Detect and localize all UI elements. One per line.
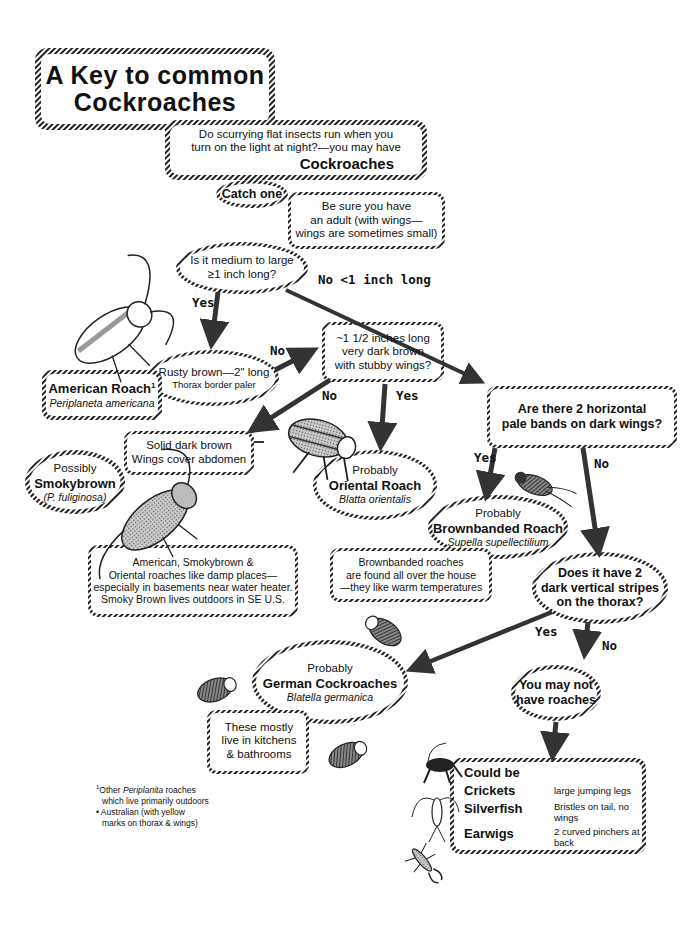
brownbanded-name: Brownbanded Roach — [433, 521, 563, 536]
label-yes-size: Yes — [192, 295, 215, 310]
solid-dark-line-2: Wings cover abdomen — [132, 453, 246, 467]
title-line-1: A Key to common — [45, 62, 264, 90]
damp-note-line-2: Oriental roaches like damp places— — [109, 569, 278, 581]
stripes-question: Does it have 2 dark vertical stripes on … — [540, 562, 660, 614]
damp-note: American, Smokybrown & Oriental roaches … — [91, 548, 295, 614]
could-be-item-desc: large jumping legs — [554, 785, 652, 796]
american-roach-result: American Roach1 Periplaneta americana — [46, 374, 158, 416]
oriental-latin: Blatta orientalis — [339, 493, 411, 505]
stubby-line-2: very dark brown — [342, 345, 424, 359]
damp-note-line-1: American, Smokybrown & — [133, 556, 254, 568]
footnote-line-2: which live primarily outdoors — [96, 796, 209, 807]
could-be-list: Could be Crickets large jumping legs Sil… — [454, 765, 652, 848]
oriental-result: Probably Oriental Roach Blatta orientali… — [320, 460, 430, 510]
could-be-item-name: Crickets — [464, 783, 554, 798]
adult-note: Be sure you have an adult (with wings— w… — [291, 195, 442, 246]
intro-box: Do scurrying flat insects run when you t… — [170, 125, 422, 175]
adult-note-line-1: Be sure you have — [322, 200, 412, 214]
stubby-line-1: ~1 1/2 inches long — [336, 332, 430, 346]
oriental-prefix: Probably — [352, 464, 397, 478]
german-name: German Cockroaches — [263, 676, 397, 691]
smokybrown-result: Possibly Smokybrown (P. fuliginosa) — [30, 458, 120, 508]
adult-note-line-3: wings are sometimes small) — [296, 227, 438, 241]
catch-one-label: Catch one — [222, 187, 282, 202]
could-be-item-desc: Bristles on tail, no wings — [554, 801, 652, 823]
brownbanded-note-line-1: Brownbanded roaches — [358, 556, 463, 568]
german-note-line-2: live in kitchens — [222, 734, 297, 748]
solid-dark-line-1: Solid dark brown — [146, 439, 232, 453]
smokybrown-prefix: Possibly — [54, 462, 97, 476]
label-no-size: No <1 inch long — [318, 272, 431, 287]
german-note: These mostly live in kitchens & bathroom… — [214, 714, 304, 768]
bands-line-2: pale bands on dark wings? — [502, 417, 662, 432]
could-be-box: Could be Crickets large jumping legs Sil… — [454, 768, 642, 844]
brownbanded-prefix: Probably — [475, 507, 520, 521]
american-roach-name: American Roach1 — [48, 381, 155, 397]
german-result: Probably German Cockroaches Blatella ger… — [262, 658, 398, 708]
brownbanded-latin: Supella supellectilium — [448, 536, 549, 548]
label-yes-stripes: Yes — [535, 624, 558, 639]
label-no-stubby: No — [322, 388, 337, 403]
brownbanded-note-line-2: are found all over the house — [346, 569, 476, 581]
brownbanded-note: Brownbanded roaches are found all over t… — [333, 551, 489, 599]
german-prefix: Probably — [307, 662, 352, 676]
could-be-heading: Could be — [464, 765, 652, 780]
footnote-line-4: marks on thorax & wings) — [96, 818, 209, 829]
intro-line-1: Do scurrying flat insects run when you — [199, 128, 393, 142]
rusty-line-1: Rusty brown—2" long — [159, 366, 270, 380]
label-yes-bands: Yes — [474, 450, 497, 465]
intro-line-2: turn on the light at night?—you may have — [191, 141, 401, 155]
smokybrown-latin: (P. fuliginosa) — [44, 491, 107, 503]
footnote: 1Other Periplanita roaches which live pr… — [96, 784, 209, 829]
label-yes-stubby: Yes — [396, 388, 419, 403]
rusty-node: Rusty brown—2" long Thorax border paler — [152, 358, 276, 398]
intro-emphasis: Cockroaches — [300, 155, 394, 173]
stubby-question: ~1 1/2 inches long very dark brown with … — [325, 325, 441, 379]
adult-note-line-2: an adult (with wings— — [310, 214, 423, 228]
smokybrown-name: Smokybrown — [34, 476, 116, 491]
page-title: A Key to common Cockroaches — [41, 54, 269, 124]
damp-note-line-4: Smoky Brown lives outdoors in SE U.S. — [101, 593, 285, 605]
german-note-line-1: These mostly — [225, 721, 293, 735]
no-roaches-node: You may not have roaches — [516, 675, 596, 711]
label-no-stripes: No — [602, 638, 617, 653]
brownbanded-result: Probably Brownbanded Roach Supella supel… — [432, 503, 564, 553]
title-line-2: Cockroaches — [74, 89, 237, 117]
damp-note-line-3: especially in basements near water heate… — [93, 581, 292, 593]
german-note-line-3: & bathrooms — [226, 748, 291, 762]
size-question: Is it medium to large ≥1 inch long? — [182, 248, 302, 288]
size-question-line-2: ≥1 inch long? — [208, 268, 276, 282]
bands-line-1: Are there 2 horizontal — [518, 402, 647, 417]
no-roaches-line-2: have roaches — [516, 693, 596, 708]
american-roach-latin: Periplaneta americana — [49, 397, 154, 409]
label-no-rusty: No — [270, 343, 285, 358]
oriental-name: Oriental Roach — [329, 478, 421, 493]
earwig-illustration — [402, 840, 450, 890]
could-be-item-name: Earwigs — [464, 826, 554, 848]
solid-dark-node: Solid dark brown Wings cover abdomen — [127, 434, 251, 472]
footnote-line-1: 1Other Periplanita roaches — [96, 784, 209, 796]
could-be-item-name: Silverfish — [464, 801, 554, 823]
rusty-line-2: Thorax border paler — [172, 379, 255, 390]
bands-question: Are there 2 horizontal pale bands on dar… — [490, 389, 674, 445]
brownbanded-note-line-3: —they like warm temperatures — [340, 581, 482, 593]
could-be-item-desc: 2 curved pinchers at back — [554, 826, 652, 848]
no-roaches-line-1: You may not — [519, 678, 593, 693]
stripes-line-1: Does it have 2 — [558, 566, 642, 581]
stripes-line-2: dark vertical stripes — [541, 581, 659, 596]
german-latin: Blatella germanica — [287, 691, 373, 703]
size-question-line-1: Is it medium to large — [190, 254, 294, 268]
footnote-line-3: • Australian (with yellow — [96, 807, 209, 818]
stubby-line-3: with stubby wings? — [335, 359, 432, 373]
catch-one-node: Catch one — [220, 184, 284, 204]
stripes-line-3: on the thorax? — [557, 595, 644, 610]
label-no-bands: No — [594, 456, 609, 471]
